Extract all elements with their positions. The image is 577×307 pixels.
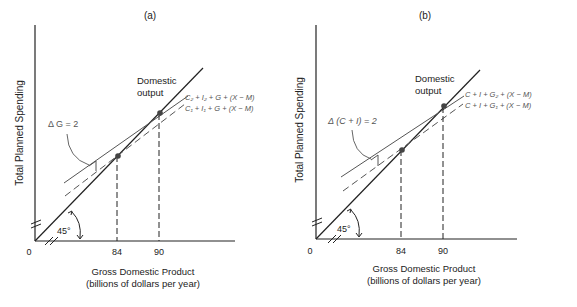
panel-b-curve-upper-label: C + I + G₂ + (X − M)	[465, 90, 532, 99]
panel-a-equilibrium-90	[157, 110, 163, 116]
panel-a-equilibrium-84	[115, 153, 121, 159]
panel-a-x-label-line1: Gross Domestic Product	[92, 266, 195, 277]
panel-b-angle-arrowhead-top-icon	[347, 209, 351, 213]
panel-a-domestic-output-line1: Domestic	[137, 75, 177, 86]
panel-a-curve-lower-label: C₁ + I₁ + G + (X − M)	[185, 104, 254, 113]
panel-b-curve-lower-label: C + I + G₁ + (X − M)	[465, 101, 532, 110]
panel-b-y-axis-break	[312, 218, 322, 226]
diagram-canvas: (a) Total Planned Spending	[0, 0, 577, 307]
panel-a-tick-84: 84	[112, 247, 122, 257]
panel-b-x-label-line2: (billions of dollars per year)	[367, 275, 481, 286]
panel-b-delta-arrow-icon	[352, 130, 371, 159]
panel-b-angle-label: 45°	[337, 224, 351, 234]
panel-a-tick-90: 90	[154, 247, 164, 257]
panel-b-equilibrium-84	[399, 147, 405, 153]
panel-b-45-degree-line	[316, 70, 480, 239]
panel-b: (b) Total Planned Spending 45° Domestic …	[294, 10, 532, 286]
panel-a-curve-upper-label: C₂ + I₂ + G + (X − M)	[185, 93, 255, 102]
panel-a-delta-label: Δ G = 2	[48, 119, 78, 129]
panel-a-x-label-line2: (billions of dollars per year)	[86, 278, 200, 289]
panel-b-domestic-output-line2: output	[415, 85, 442, 96]
panel-b-y-label: Total Planned Spending	[294, 77, 305, 183]
panel-b-tick-90: 90	[438, 246, 448, 256]
panel-a-y-label: Total Planned Spending	[14, 80, 25, 186]
panel-a-curve-upper	[64, 96, 188, 183]
panel-b-x-label-line1: Gross Domestic Product	[373, 263, 476, 274]
panel-b-tick-84: 84	[396, 246, 406, 256]
panel-b-origin-label: 0	[307, 246, 312, 256]
panel-a-angle-label: 45°	[57, 226, 71, 236]
panel-a-curve-lower	[65, 104, 185, 196]
panel-a-delta-arrow-icon	[67, 134, 89, 165]
panel-a-angle-arc-icon	[72, 212, 80, 238]
panel-b-domestic-output-line1: Domestic	[415, 73, 455, 84]
panel-b-equilibrium-90	[441, 103, 447, 109]
panel-a-domestic-output-line2: output	[137, 87, 164, 98]
panel-b-delta-label: Δ (C + I) = 2	[327, 116, 377, 126]
panel-a-origin-label: 0	[26, 247, 31, 257]
panel-a: (a) Total Planned Spending	[14, 10, 255, 289]
panel-a-title: (a)	[144, 10, 156, 21]
panel-a-angle-arrowhead-top-icon	[68, 211, 72, 215]
panel-b-title: (b)	[419, 10, 431, 21]
panel-b-angle-arc-icon	[351, 210, 359, 236]
panel-a-y-axis-break	[31, 220, 41, 228]
